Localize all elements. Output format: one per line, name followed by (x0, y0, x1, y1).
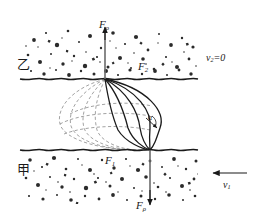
dashed-wavefront-curves (59, 79, 152, 150)
label-medium-lower: 甲 (17, 163, 30, 176)
label-force-f1: F1 (105, 155, 115, 167)
diagram-canvas (0, 0, 261, 220)
label-force-rho-bottom: Fρ (136, 200, 146, 212)
label-force-f2: F2 (138, 61, 148, 73)
interface-line-lower (20, 149, 198, 150)
grain-texture-upper (25, 30, 197, 77)
interface-line-upper (20, 78, 198, 79)
label-velocity-v2: v2=0 (206, 53, 225, 64)
solid-wavefront-curves (105, 79, 161, 150)
label-medium-upper: 乙 (17, 58, 30, 71)
physics-diagram: Fρ Fρ F2 F1 乙 甲 v2=0 v1 α (0, 0, 261, 220)
label-velocity-v1: v1 (223, 180, 231, 191)
label-angle-alpha: α (148, 114, 152, 122)
label-force-rho-top: Fρ (99, 19, 109, 31)
